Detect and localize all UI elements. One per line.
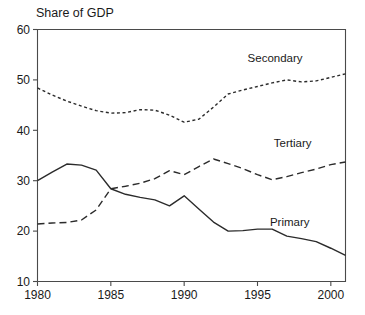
series-group bbox=[38, 74, 346, 255]
y-tick-label: 20 bbox=[17, 224, 31, 238]
series-line-secondary bbox=[38, 74, 346, 122]
series-label-primary: Primary bbox=[270, 216, 310, 228]
line-chart-plot: 102030405060 19801985199019952000 Second… bbox=[0, 0, 365, 315]
series-label-group: SecondaryTertiaryPrimary bbox=[248, 52, 312, 228]
y-axis-tick-group: 102030405060 bbox=[17, 23, 38, 289]
axis-frame bbox=[38, 30, 346, 282]
y-tick-label: 10 bbox=[17, 275, 31, 289]
series-line-tertiary bbox=[38, 159, 346, 224]
x-tick-label: 1990 bbox=[171, 288, 198, 302]
series-label-tertiary: Tertiary bbox=[274, 137, 312, 149]
y-tick-label: 50 bbox=[17, 73, 31, 87]
x-tick-label: 1985 bbox=[97, 288, 124, 302]
chart-container: Share of GDP 102030405060 19801985199019… bbox=[0, 0, 365, 315]
y-tick-label: 40 bbox=[17, 124, 31, 138]
x-tick-label: 1995 bbox=[244, 288, 271, 302]
y-tick-label: 60 bbox=[17, 23, 31, 37]
axis-box bbox=[38, 30, 346, 282]
x-tick-label: 1980 bbox=[24, 288, 51, 302]
series-label-secondary: Secondary bbox=[248, 52, 303, 64]
series-line-primary bbox=[38, 164, 346, 255]
x-tick-label: 2000 bbox=[317, 288, 344, 302]
x-axis-tick-group: 19801985199019952000 bbox=[24, 282, 344, 303]
y-tick-label: 30 bbox=[17, 174, 31, 188]
